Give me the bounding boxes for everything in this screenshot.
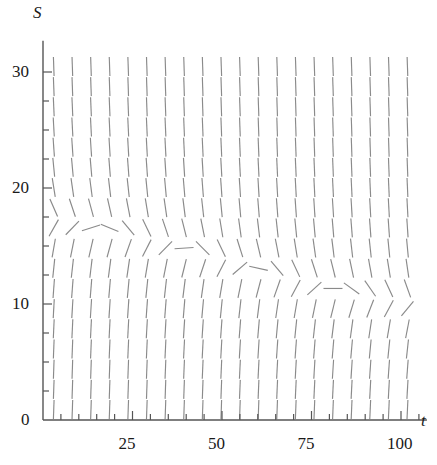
x-tick-label: 25: [119, 435, 136, 452]
axes-group: [43, 41, 427, 420]
x-tick-label: 75: [298, 435, 315, 452]
y-tick-label: 10: [12, 295, 29, 312]
slope-field-canvas: [0, 0, 437, 465]
y-tick-label: 20: [12, 179, 29, 196]
slope-field-figure: S t 255075100 0102030: [0, 0, 437, 465]
x-tick-label: 50: [208, 435, 225, 452]
y-tick-label: 30: [12, 63, 29, 80]
x-axis-label: t: [421, 412, 426, 429]
y-axis-label: S: [33, 4, 42, 21]
x-tick-label: 100: [387, 435, 413, 452]
y-tick-label: 0: [21, 411, 30, 428]
direction-field-dashes: [49, 57, 413, 419]
